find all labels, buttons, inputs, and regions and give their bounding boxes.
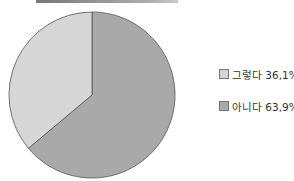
legend-label-yes: 그렇다 36,1%: [232, 67, 294, 82]
legend-item-no: 아니다 63,9%: [219, 99, 294, 113]
legend: 그렇다 36,1% 아니다 63,9%: [219, 67, 294, 131]
legend-label-no: 아니다 63,9%: [232, 99, 294, 114]
legend-item-yes: 그렇다 36,1%: [219, 67, 294, 81]
legend-swatch-no: [219, 101, 229, 111]
legend-swatch-yes: [219, 69, 229, 79]
